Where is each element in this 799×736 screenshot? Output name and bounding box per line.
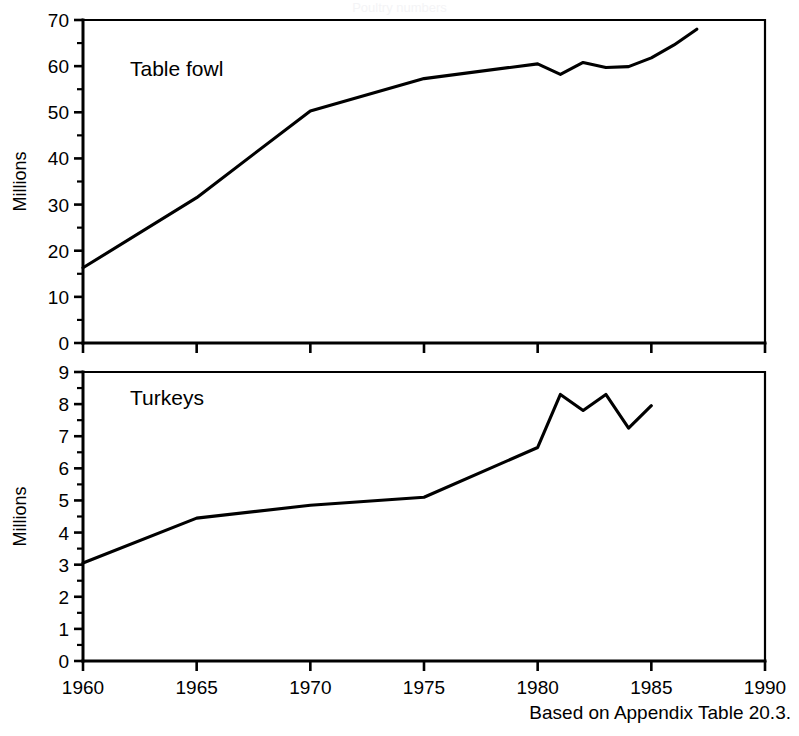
y-tick-label-table-fowl: 10: [48, 287, 69, 308]
x-tick-label: 1985: [630, 677, 672, 698]
y-tick-label-turkeys: 4: [58, 523, 69, 544]
panel-table-fowl: 010203040506070MillionsTable fowl: [10, 10, 765, 354]
x-tick-label: 1990: [744, 677, 786, 698]
x-tick-label: 1960: [62, 677, 104, 698]
y-axis-title-turkeys: Millions: [10, 486, 30, 546]
y-tick-label-turkeys: 5: [58, 490, 69, 511]
y-tick-label-table-fowl: 20: [48, 241, 69, 262]
data-line-turkeys: [83, 394, 651, 563]
panel-turkeys: 01234567891960196519701975198019851990Mi…: [10, 362, 786, 698]
y-tick-label-table-fowl: 40: [48, 148, 69, 169]
chart-canvas: 010203040506070MillionsTable fowl0123456…: [0, 0, 799, 700]
y-tick-label-table-fowl: 60: [48, 56, 69, 77]
y-tick-label-turkeys: 0: [58, 651, 69, 672]
y-tick-label-table-fowl: 50: [48, 102, 69, 123]
y-axis-title-table-fowl: Millions: [10, 151, 30, 211]
poultry-numbers-figure: 010203040506070MillionsTable fowl0123456…: [0, 0, 799, 736]
y-tick-label-table-fowl: 0: [58, 333, 69, 354]
y-tick-label-turkeys: 9: [58, 362, 69, 383]
plot-frame-turkeys: [83, 372, 765, 661]
x-tick-label: 1970: [289, 677, 331, 698]
y-tick-label-table-fowl: 70: [48, 10, 69, 31]
y-tick-label-table-fowl: 30: [48, 195, 69, 216]
y-tick-label-turkeys: 1: [58, 619, 69, 640]
y-tick-label-turkeys: 6: [58, 458, 69, 479]
source-note: Based on Appendix Table 20.3.: [529, 702, 791, 724]
y-tick-label-turkeys: 7: [58, 426, 69, 447]
y-tick-label-turkeys: 3: [58, 555, 69, 576]
y-tick-label-turkeys: 2: [58, 587, 69, 608]
x-tick-label: 1980: [517, 677, 559, 698]
y-tick-label-turkeys: 8: [58, 394, 69, 415]
x-tick-label: 1975: [403, 677, 445, 698]
series-label-turkeys: Turkeys: [130, 386, 204, 409]
series-label-table-fowl: Table fowl: [130, 57, 223, 80]
x-tick-label: 1965: [176, 677, 218, 698]
